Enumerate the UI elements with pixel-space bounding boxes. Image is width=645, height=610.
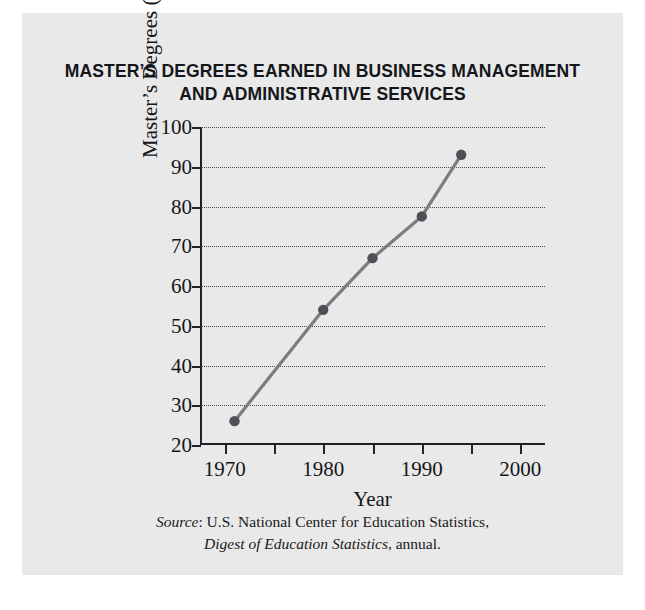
x-axis-title: Year — [200, 487, 545, 512]
data-point-marker — [229, 416, 239, 426]
x-axis-tick — [323, 445, 325, 454]
x-axis-tick-label: 1980 — [278, 459, 368, 480]
data-point-marker — [318, 305, 328, 315]
data-point-marker — [456, 150, 466, 160]
figure-page: MASTER’S DEGREES EARNED IN BUSINESS MANA… — [22, 13, 623, 575]
y-axis-tick-label: 90 — [132, 157, 192, 178]
source-line-1-rest: : U.S. National Center for Education Sta… — [198, 513, 489, 530]
y-axis-tick-label: 80 — [132, 197, 192, 218]
series-line — [235, 155, 462, 421]
y-axis-tick-label: 50 — [132, 316, 192, 337]
source-publication: Digest of Education Statistics — [204, 535, 388, 552]
y-axis-tick — [192, 445, 201, 447]
x-axis-tick-label: 1970 — [180, 459, 270, 480]
source-line-1: Source: U.S. National Center for Educati… — [22, 511, 623, 533]
source-label: Source — [156, 513, 198, 530]
x-axis-tick — [520, 445, 522, 454]
y-axis-tick-label: 40 — [132, 356, 192, 377]
y-axis-tick-label: 60 — [132, 276, 192, 297]
x-axis-tick — [422, 445, 424, 454]
x-axis-tick — [373, 445, 375, 454]
x-axis-tick-label: 1990 — [377, 459, 467, 480]
x-axis-tick — [274, 445, 276, 454]
x-axis-tick-label: 2000 — [475, 459, 565, 480]
data-point-marker — [367, 253, 377, 263]
source-line-2-rest: , annual. — [388, 535, 441, 552]
y-axis-tick-label: 30 — [132, 395, 192, 416]
plot-area: 2030405060708090100 1970198019902000 — [200, 127, 545, 445]
y-axis-tick-label: 100 — [132, 117, 192, 138]
y-axis-tick-label: 20 — [132, 435, 192, 456]
series-plot — [200, 127, 545, 445]
data-point-marker — [417, 211, 427, 221]
source-note: Source: U.S. National Center for Educati… — [22, 511, 623, 555]
y-axis-tick-label: 70 — [132, 236, 192, 257]
x-axis-tick — [471, 445, 473, 454]
source-line-2: Digest of Education Statistics, annual. — [22, 533, 623, 555]
line-chart: Master’s Degrees (in thousands) 20304050… — [22, 13, 623, 575]
x-axis-tick — [225, 445, 227, 454]
